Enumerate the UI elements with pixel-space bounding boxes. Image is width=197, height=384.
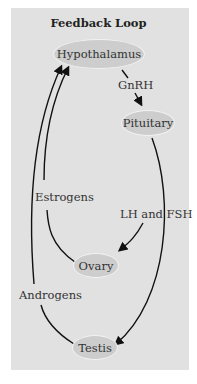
arrow-androgens xyxy=(41,305,74,344)
node-testis: Testis xyxy=(72,335,118,360)
arrow-pituitary-to-testis xyxy=(116,138,164,344)
arrow-gnrh xyxy=(122,70,128,78)
node-ovary: Ovary xyxy=(73,253,119,278)
label-gnrh: GnRH xyxy=(118,78,153,92)
label-lh-fsh: LH and FSH xyxy=(120,207,193,221)
node-pituitary: Pituitary xyxy=(121,110,175,136)
arrow-lh-fsh-to-ovary xyxy=(120,223,143,250)
label-androgens: Androgens xyxy=(19,288,82,302)
label-estrogens: Estrogens xyxy=(35,190,94,204)
arrow-estrogens xyxy=(47,210,75,262)
node-hypothalamus: Hypothalamus xyxy=(53,39,145,69)
